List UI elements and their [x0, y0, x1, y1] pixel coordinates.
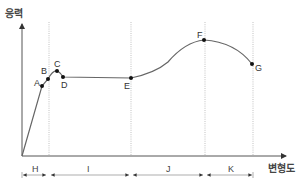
x-axis-label: 변형도 [268, 162, 295, 174]
stress-strain-diagram: A B C D E F G 응력 변형도 H I J K [0, 0, 304, 187]
point-label-g: G [255, 63, 262, 73]
region-label-i: I [87, 164, 90, 174]
point-label-d: D [61, 80, 68, 90]
region-label-h: H [32, 164, 39, 174]
point-label-a: A [34, 78, 40, 88]
point-f [202, 38, 206, 42]
point-e [129, 76, 133, 80]
y-axis-label: 응력 [5, 8, 23, 19]
point-g [250, 62, 254, 66]
point-c [55, 69, 59, 73]
point-label-c: C [54, 59, 61, 69]
point-d [61, 75, 65, 79]
region-label-k: K [228, 164, 234, 174]
point-b [46, 77, 50, 81]
point-a [40, 84, 44, 88]
stress-strain-curve [22, 40, 252, 156]
point-label-e: E [124, 81, 130, 91]
region-label-j: J [166, 164, 171, 174]
point-label-b: B [41, 66, 47, 76]
point-label-f: F [197, 30, 203, 40]
